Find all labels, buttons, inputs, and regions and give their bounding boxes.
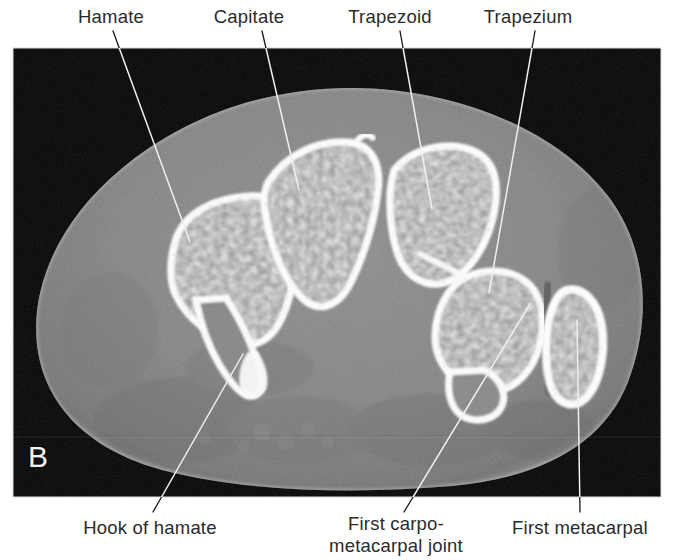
label-hamate-text: Hamate	[78, 6, 144, 27]
label-first-metacarpal-line1: First metacarpal	[512, 517, 648, 538]
label-trapezium: Trapezium	[484, 6, 573, 28]
label-capitate: Capitate	[214, 6, 285, 28]
label-hamate: Hamate	[78, 6, 144, 28]
ct-figure-panel: Hamate Capitate Trapezoid Trapezium Hook…	[0, 0, 673, 560]
label-first-carpometacarpal-joint: First carpo- metacarpal joint	[329, 513, 463, 557]
figure-canvas	[0, 0, 673, 560]
ct-image	[13, 48, 661, 497]
label-first-metacarpal: First metacarpal	[512, 517, 648, 539]
label-trapezoid-text: Trapezoid	[348, 6, 431, 27]
label-hook-of-hamate-line1: Hook of hamate	[83, 517, 216, 538]
label-first-cmc-line1: First carpo-	[329, 513, 463, 535]
label-hook-of-hamate: Hook of hamate	[83, 517, 216, 539]
label-trapezium-text: Trapezium	[484, 6, 573, 27]
label-trapezoid: Trapezoid	[348, 6, 431, 28]
panel-letter: B	[28, 440, 49, 474]
label-capitate-text: Capitate	[214, 6, 285, 27]
label-first-cmc-line2: metacarpal joint	[329, 535, 463, 557]
panel-letter-text: B	[28, 440, 49, 473]
